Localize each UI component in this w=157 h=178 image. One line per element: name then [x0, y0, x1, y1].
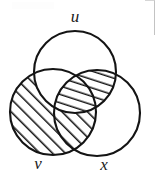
venn-diagram-svg — [0, 0, 157, 178]
set-label-x: x — [92, 156, 116, 173]
set-label-v: v — [26, 155, 50, 172]
set-label-u: u — [63, 8, 87, 25]
venn-diagram-figure: u v x — [0, 0, 157, 178]
